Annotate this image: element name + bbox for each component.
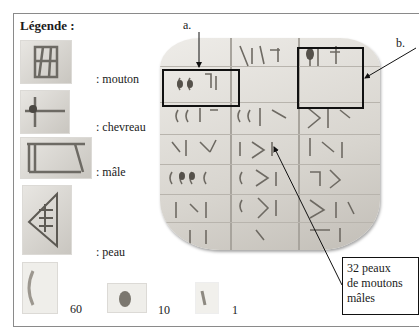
legend-label-kid-goat: : chevreau [96,120,146,135]
highlight-box-b [297,47,364,109]
kid-goat-sign-icon [20,90,70,134]
frame-left-border [13,13,14,327]
numeral-60-icon [22,262,58,314]
callout-label-a: a. [183,18,191,33]
numeral-1-value: 1 [232,303,238,318]
numeral-10-icon [107,283,147,313]
legend-label-sheep: : mouton [96,72,139,87]
legend-title: Légende : [20,18,75,34]
legend-label-skin: : peau [96,245,125,260]
numeral-1-icon [195,282,219,314]
numeral-10-value: 10 [158,303,170,318]
numeral-60-value: 60 [70,302,82,317]
male-sign-icon [20,137,92,179]
skin-sign-icon [22,185,72,255]
note-line-2: de moutons [347,276,414,291]
annotation-note-box: 32 peaux de moutons mâles [342,257,419,315]
legend-label-male: : mâle [96,165,126,180]
sheep-sign-icon [20,40,72,84]
frame-top-border [13,13,419,14]
highlight-box-a [162,69,240,107]
note-line-3: mâles [347,291,414,306]
frame-bottom-border [13,326,419,327]
note-line-1: 32 peaux [347,261,414,276]
callout-label-b: b. [396,36,405,51]
